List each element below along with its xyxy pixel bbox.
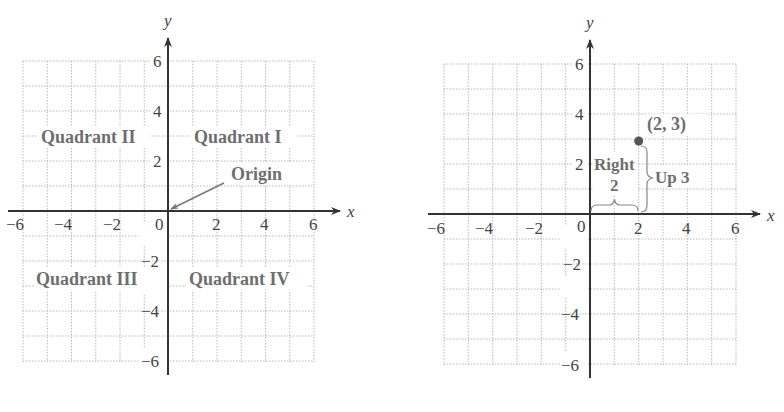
right-y-tick: −4 <box>561 305 580 324</box>
plotted-point <box>634 137 643 146</box>
left-x-tick: 0 <box>155 215 164 234</box>
left-y-tick: 2 <box>153 152 162 171</box>
left-x-tick: 4 <box>260 215 269 234</box>
right-x-tick: −4 <box>475 219 494 238</box>
left-graph: x y −6 −4 −2 0 2 4 6 6 4 2 −2 −4 −6 Quad… <box>6 11 355 375</box>
left-y-tick: −2 <box>141 252 159 271</box>
right-x-tick: −6 <box>427 219 445 238</box>
right-y-tick: 6 <box>575 55 584 74</box>
vertical-brace <box>641 146 653 212</box>
right-x-tick: 2 <box>634 219 643 238</box>
left-x-tick: −6 <box>6 215 24 234</box>
left-x-tick: 6 <box>309 215 318 234</box>
right-x-tick: 4 <box>682 219 691 238</box>
quadrant-4-label: Quadrant IV <box>189 269 290 289</box>
left-y-tick: −4 <box>141 302 160 321</box>
quadrant-3-label: Quadrant III <box>36 269 138 289</box>
right-x-tick: −2 <box>525 219 543 238</box>
left-x-axis-label: x <box>346 202 355 221</box>
left-y-tick: 4 <box>153 102 162 121</box>
right-y-tick: 4 <box>575 105 584 124</box>
left-x-tick: 2 <box>212 215 221 234</box>
quadrant-1-label: Quadrant I <box>194 127 282 147</box>
right-label: Right <box>594 155 635 174</box>
right-count-label: 2 <box>610 176 619 195</box>
right-x-tick: 6 <box>731 219 740 238</box>
left-x-tick: −2 <box>103 215 121 234</box>
quadrant-2-label: Quadrant II <box>41 127 136 147</box>
right-x-axis-label: x <box>766 206 775 225</box>
right-x-tick: 0 <box>577 217 586 236</box>
left-x-tick: −4 <box>54 215 73 234</box>
right-y-tick: 2 <box>575 155 584 174</box>
left-y-axis-label: y <box>162 11 172 30</box>
right-graph: x y −6 −4 −2 0 2 4 6 6 4 2 −2 −4 −6 (2, … <box>427 13 775 378</box>
point-label: (2, 3) <box>647 114 686 135</box>
left-y-tick: −6 <box>141 352 159 371</box>
right-y-tick: −6 <box>561 356 579 375</box>
origin-arrow <box>171 183 224 209</box>
coordinate-figures: x y −6 −4 −2 0 2 4 6 6 4 2 −2 −4 −6 Quad… <box>0 0 784 412</box>
origin-label: Origin <box>231 164 282 184</box>
right-y-tick: −2 <box>563 255 581 274</box>
right-y-axis-label: y <box>584 13 594 32</box>
up-label: Up 3 <box>655 168 689 187</box>
left-y-tick: 6 <box>153 52 162 71</box>
